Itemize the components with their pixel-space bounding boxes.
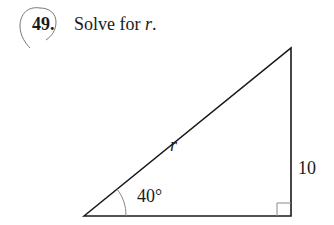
angle-arc-icon xyxy=(117,189,126,216)
angle-label: 40° xyxy=(137,186,162,207)
triangle-shape xyxy=(84,48,291,216)
triangle-figure xyxy=(0,0,334,225)
right-angle-marker-icon xyxy=(277,203,291,216)
hypotenuse-label: r xyxy=(170,135,177,156)
side-length-label: 10 xyxy=(298,158,316,179)
